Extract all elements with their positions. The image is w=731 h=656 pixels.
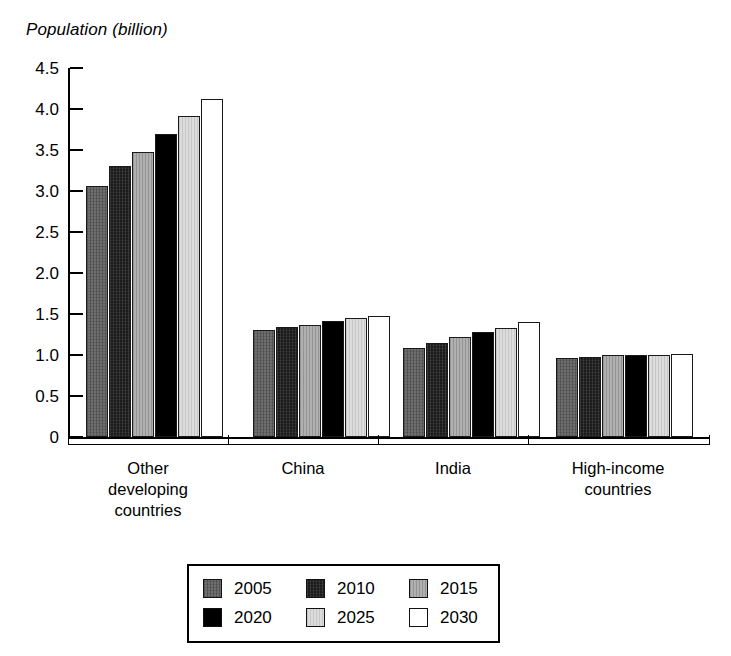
legend-label: 2020 bbox=[234, 609, 272, 626]
bar bbox=[299, 325, 321, 437]
bar bbox=[132, 152, 154, 437]
legend-item[interactable]: 2015 bbox=[395, 579, 498, 598]
bar bbox=[449, 337, 471, 437]
legend-item[interactable]: 2020 bbox=[189, 608, 292, 627]
bar bbox=[426, 343, 448, 437]
bar bbox=[253, 330, 275, 437]
bar-group bbox=[556, 68, 694, 437]
y-tick-mark bbox=[70, 108, 83, 110]
legend-swatch bbox=[203, 579, 222, 598]
y-tick-mark bbox=[70, 313, 83, 315]
y-tick-label: 4.0 bbox=[35, 101, 59, 118]
y-tick-label: 0.5 bbox=[35, 388, 59, 405]
legend-label: 2010 bbox=[337, 580, 375, 597]
y-tick-mark bbox=[70, 190, 83, 192]
chart-title: Population (billion) bbox=[26, 20, 168, 40]
bar-group bbox=[86, 68, 224, 437]
y-tick-mark bbox=[70, 272, 83, 274]
y-tick-label: 1.5 bbox=[35, 306, 59, 323]
legend-item[interactable]: 2025 bbox=[292, 608, 395, 627]
category-divider-tick bbox=[228, 435, 229, 445]
bar bbox=[155, 134, 177, 437]
category-axis-line bbox=[68, 444, 710, 445]
bar bbox=[579, 357, 601, 437]
bar bbox=[276, 327, 298, 437]
bar bbox=[178, 116, 200, 437]
legend-swatch bbox=[306, 608, 325, 627]
legend-row: 202020252030 bbox=[189, 603, 498, 632]
y-tick-mark bbox=[70, 231, 83, 233]
bar bbox=[671, 354, 693, 437]
bar bbox=[472, 332, 494, 437]
legend-item[interactable]: 2030 bbox=[395, 608, 498, 627]
y-tick-label: 3.0 bbox=[35, 183, 59, 200]
bar bbox=[322, 321, 344, 437]
legend-swatch bbox=[306, 579, 325, 598]
y-tick-mark bbox=[70, 149, 83, 151]
plot-area: 00.51.01.52.02.53.03.54.04.5 bbox=[68, 68, 710, 437]
y-tick-label: 2.0 bbox=[35, 265, 59, 282]
bar bbox=[201, 99, 223, 437]
bar bbox=[625, 355, 647, 437]
bar bbox=[109, 166, 131, 437]
category-divider-tick bbox=[378, 435, 379, 445]
y-tick-mark bbox=[70, 354, 83, 356]
legend-item[interactable]: 2005 bbox=[189, 579, 292, 598]
legend-item[interactable]: 2010 bbox=[292, 579, 395, 598]
x-axis-baseline bbox=[68, 437, 710, 439]
legend-label: 2015 bbox=[440, 580, 478, 597]
category-label: India bbox=[378, 458, 528, 479]
legend-row: 200520102015 bbox=[189, 574, 498, 603]
legend-label: 2005 bbox=[234, 580, 272, 597]
legend-swatch bbox=[203, 608, 222, 627]
bar bbox=[345, 318, 367, 437]
legend-label: 2030 bbox=[440, 609, 478, 626]
y-tick-mark bbox=[70, 395, 83, 397]
bar-group bbox=[253, 68, 391, 437]
bar bbox=[368, 316, 390, 437]
legend-swatch bbox=[409, 608, 428, 627]
bar bbox=[495, 328, 517, 437]
category-label: High-income countries bbox=[543, 458, 693, 500]
y-tick-mark bbox=[70, 67, 83, 69]
bar bbox=[86, 186, 108, 437]
y-tick-label: 3.5 bbox=[35, 142, 59, 159]
category-divider-tick bbox=[68, 435, 69, 445]
legend-swatch bbox=[409, 579, 428, 598]
category-divider-tick bbox=[709, 435, 710, 445]
category-label: Other developing countries bbox=[73, 458, 223, 521]
bar bbox=[518, 322, 540, 437]
y-tick-label: 0 bbox=[50, 429, 59, 446]
bar-group bbox=[403, 68, 541, 437]
y-tick-mark bbox=[70, 436, 83, 438]
y-tick-label: 1.0 bbox=[35, 347, 59, 364]
category-label: China bbox=[228, 458, 378, 479]
bar bbox=[403, 348, 425, 437]
y-axis-line bbox=[68, 68, 70, 438]
bar bbox=[602, 355, 624, 437]
y-tick-label: 4.5 bbox=[35, 60, 59, 77]
bar bbox=[648, 355, 670, 437]
chart-legend: 200520102015202020252030 bbox=[187, 564, 500, 643]
y-tick-label: 2.5 bbox=[35, 224, 59, 241]
bar bbox=[556, 358, 578, 437]
category-divider-tick bbox=[528, 435, 529, 445]
legend-label: 2025 bbox=[337, 609, 375, 626]
